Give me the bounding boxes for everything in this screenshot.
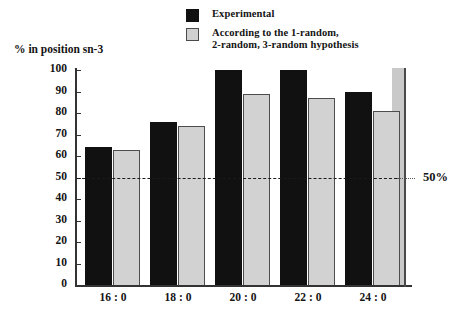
x-axis-line [75, 285, 412, 287]
legend-label-hypothesis-line1: According to the 1-random, [212, 27, 339, 38]
legend-label-hypothesis: According to the 1-random, 2-random, 3-r… [212, 27, 359, 50]
bar-hypothesis [308, 98, 335, 285]
y-axis-title: % in position sn-3 [14, 43, 103, 55]
y-tick-label: 100 [50, 62, 67, 74]
y-tick-label: 0 [61, 277, 67, 289]
x-tick-label: 18 : 0 [148, 291, 208, 303]
x-tick-label: 16 : 0 [83, 291, 143, 303]
y-axis-ticks: 1009080706050403020100 [0, 70, 75, 285]
reference-line-50 [77, 178, 397, 179]
legend-label-hypothesis-line2: 2-random, 3-random hypothesis [212, 39, 359, 50]
legend-item-experimental: Experimental [186, 8, 436, 22]
bar-hypothesis [113, 150, 140, 285]
reference-line-label: 50% [423, 170, 448, 185]
y-tick-label: 10 [56, 256, 68, 268]
x-tick-label: 22 : 0 [278, 291, 338, 303]
y-tick-label: 50 [56, 170, 68, 182]
y-tick-label: 70 [56, 127, 68, 139]
bar-experimental [150, 122, 177, 285]
bar-hypothesis [243, 94, 270, 285]
legend-swatch-hypothesis [186, 28, 199, 41]
chart-legend: Experimental According to the 1-random, … [186, 8, 436, 55]
bar-experimental [85, 147, 112, 285]
y-tick-label: 30 [56, 213, 68, 225]
bar-hypothesis [373, 111, 400, 285]
y-tick-mark [75, 285, 81, 286]
legend-item-hypothesis: According to the 1-random, 2-random, 3-r… [186, 27, 436, 50]
y-tick-label: 80 [56, 105, 68, 117]
x-tick-label: 24 : 0 [343, 291, 403, 303]
y-tick-label: 90 [56, 84, 68, 96]
reference-line-tail [397, 178, 415, 179]
y-tick-label: 40 [56, 191, 68, 203]
y-tick-label: 20 [56, 234, 68, 246]
x-tick-label: 20 : 0 [213, 291, 273, 303]
legend-label-experimental: Experimental [212, 8, 274, 20]
bar-experimental [345, 92, 372, 286]
y-tick-label: 60 [56, 148, 68, 160]
bar-hypothesis [178, 126, 205, 285]
legend-swatch-experimental [186, 9, 199, 22]
